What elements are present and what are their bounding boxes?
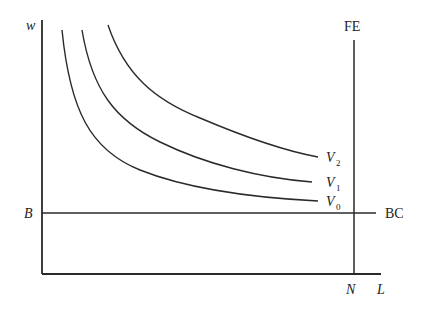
curve-v2 xyxy=(108,25,318,157)
curve-label-v1-sub: 1 xyxy=(336,183,341,193)
bc-label: BC xyxy=(385,206,404,221)
curve-label-v2: V 2 xyxy=(326,150,341,168)
y-axis-label: w xyxy=(26,18,36,33)
curve-label-v0: V 0 xyxy=(326,194,341,212)
curve-label-v2-name: V xyxy=(326,150,336,165)
curve-label-v0-name: V xyxy=(326,194,336,209)
curve-v1 xyxy=(82,30,312,182)
labor-market-diagram: w L FE BC B N V 2 V 1 V 0 xyxy=(0,0,423,310)
curve-label-v1: V 1 xyxy=(326,175,341,193)
n-level-label: N xyxy=(345,282,356,297)
x-axis-label: L xyxy=(376,282,385,297)
curve-label-v1-name: V xyxy=(326,175,336,190)
curve-label-v0-sub: 0 xyxy=(336,202,341,212)
b-level-label: B xyxy=(24,206,33,221)
fe-label: FE xyxy=(344,19,360,34)
curve-v0 xyxy=(62,30,318,201)
curve-label-v2-sub: 2 xyxy=(336,158,341,168)
